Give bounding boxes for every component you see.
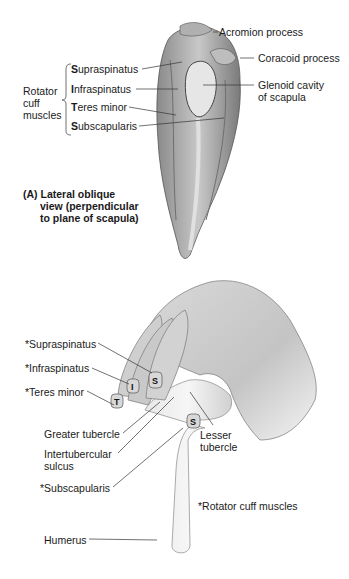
svg-text:I: I <box>131 382 134 392</box>
rotator-cuff-group-label: Rotator cuff muscles <box>23 85 62 121</box>
label-rest: eres minor <box>77 101 127 113</box>
sulcus-line-2: sulcus <box>44 460 112 472</box>
label-infraspinatus: Infraspinatus <box>71 83 131 95</box>
label-acromion-process: Acromion process <box>219 26 303 38</box>
label-humerus: Humerus <box>44 534 87 546</box>
label-glenoid-cavity: Glenoid cavity of scapula <box>258 79 324 103</box>
label-rest: ubscapularis <box>78 120 137 132</box>
initial-s: S <box>71 63 78 75</box>
label-greater-tubercle: Greater tubercle <box>44 428 120 440</box>
svg-text:S: S <box>190 417 196 427</box>
scapula-lateral-view <box>157 23 240 259</box>
group-label-line-1: Rotator <box>23 85 62 97</box>
caption-line-1: Lateral oblique <box>41 188 116 200</box>
sulcus-line-1: Intertubercular <box>44 448 112 460</box>
label-teres-minor: Teres minor <box>71 101 127 113</box>
hand-humerus-illustration: T I S S <box>111 281 316 553</box>
group-label-line-2: cuff <box>23 97 62 109</box>
panel-a-caption: (A) Lateral oblique <box>23 188 115 200</box>
caption-letter: (A) <box>23 188 38 200</box>
caption-line-3: to plane of scapula) <box>40 212 139 224</box>
label-intertubercular-sulcus: Intertubercular sulcus <box>44 448 112 472</box>
label-rest: upraspinatus <box>78 63 138 75</box>
lesser-line-2: tubercle <box>200 441 237 453</box>
rotator-cuff-note: *Rotator cuff muscles <box>198 500 298 512</box>
group-label-line-3: muscles <box>23 109 62 121</box>
label-lesser-tubercle: Lesser tubercle <box>200 429 237 453</box>
svg-text:S: S <box>152 376 158 386</box>
label-b-subscapularis: *Subscapularis <box>40 482 110 494</box>
label-b-supraspinatus: *Supraspinatus <box>25 338 96 350</box>
label-supraspinatus: Supraspinatus <box>71 63 138 75</box>
initial-s: S <box>71 120 78 132</box>
label-b-infraspinatus: *Infraspinatus <box>25 362 89 374</box>
glenoid-line-1: Glenoid cavity <box>258 79 324 91</box>
svg-text:T: T <box>114 397 120 407</box>
lesser-line-1: Lesser <box>200 429 237 441</box>
label-coracoid-process: Coracoid process <box>258 52 340 64</box>
label-rest: nfraspinatus <box>74 83 131 95</box>
caption-line-2: view (perpendicular <box>40 200 139 212</box>
label-b-teres-minor: *Teres minor <box>25 386 84 398</box>
label-subscapularis: Subscapularis <box>71 120 137 132</box>
glenoid-line-2: of scapula <box>258 91 324 103</box>
